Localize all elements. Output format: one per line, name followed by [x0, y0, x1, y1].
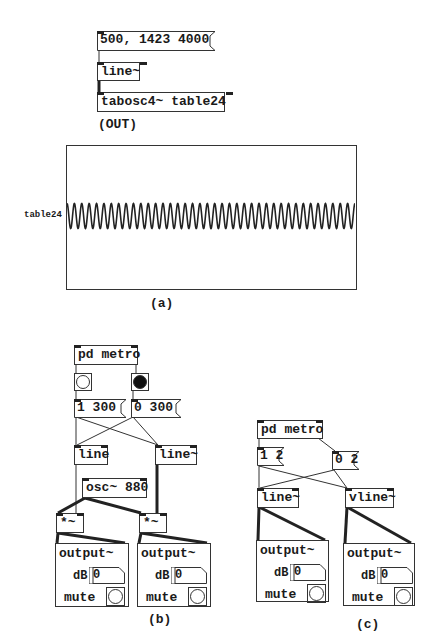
db-number-box[interactable]: 0	[377, 567, 413, 584]
caption-c: (c)	[356, 617, 379, 631]
db-label: dB	[274, 566, 288, 580]
mute-label: mute	[146, 590, 177, 605]
mute-toggle[interactable]	[307, 584, 326, 603]
pd-metro-object-b[interactable]: pd metro	[74, 345, 138, 365]
db-value: 0	[294, 564, 301, 581]
output-title: output~	[59, 546, 114, 561]
object-label: *~	[60, 515, 76, 530]
db-value: 0	[381, 567, 388, 584]
message-stop-c[interactable]: 0 2	[332, 451, 359, 470]
output-title: output~	[347, 546, 402, 561]
tabosc4-object[interactable]: tabosc4~ table24	[97, 92, 225, 112]
mute-label: mute	[64, 590, 95, 605]
out-label: (OUT)	[98, 117, 137, 132]
caption-a: (a)	[150, 296, 173, 311]
object-label: line~	[261, 490, 300, 505]
bang-stop-b[interactable]	[131, 373, 149, 391]
mute-toggle[interactable]	[394, 587, 413, 606]
output-right-b[interactable]: output~ dB 0 mute	[137, 543, 211, 607]
bang-circle-icon	[108, 589, 123, 604]
object-label: line~	[101, 64, 140, 79]
message-box-ramp[interactable]: 500, 1423 4000	[97, 31, 215, 51]
db-label: dB	[361, 569, 375, 583]
multiply-right-b[interactable]: *~	[139, 513, 167, 533]
object-label: line~	[159, 447, 198, 462]
mute-toggle[interactable]	[188, 587, 207, 606]
output-title: output~	[260, 543, 315, 558]
line-object-b[interactable]: line	[74, 445, 108, 465]
bang-circle-icon	[76, 375, 90, 389]
output-left-c[interactable]: output~ dB 0 mute	[256, 540, 329, 602]
message-stop-b[interactable]: 0 300	[131, 399, 181, 418]
object-label: tabosc4~ table24	[101, 94, 226, 109]
pd-metro-object-c[interactable]: pd metro	[257, 420, 323, 439]
object-label: line	[78, 447, 109, 462]
message-text: 1 300	[74, 400, 116, 415]
caption-b: (b)	[148, 612, 171, 627]
message-text: 1 2	[257, 448, 283, 463]
output-title: output~	[141, 546, 196, 561]
mute-label: mute	[265, 587, 296, 602]
object-label: *~	[143, 515, 159, 530]
message-start-c[interactable]: 1 2	[257, 447, 284, 466]
table24-array[interactable]	[66, 145, 357, 290]
db-number-box[interactable]: 0	[290, 564, 326, 581]
multiply-left-b[interactable]: *~	[56, 513, 84, 533]
bang-circle-icon	[309, 586, 324, 601]
message-text: 0 2	[332, 452, 358, 467]
osc-object-b[interactable]: osc~ 880	[82, 478, 147, 498]
output-right-c[interactable]: output~ dB 0 mute	[343, 543, 415, 606]
db-number-box[interactable]: 0	[89, 567, 125, 584]
bang-start-b[interactable]	[74, 373, 92, 391]
db-label: dB	[155, 569, 169, 583]
db-number-box[interactable]: 0	[171, 567, 207, 584]
object-label: osc~ 880	[86, 480, 148, 495]
output-left-b[interactable]: output~ dB 0 mute	[55, 543, 129, 607]
db-label: dB	[73, 569, 87, 583]
bang-circle-icon	[396, 589, 411, 604]
db-value: 0	[93, 567, 100, 584]
table-name-label: table24	[24, 210, 62, 220]
vline-tilde-object-c[interactable]: vline~	[345, 488, 394, 508]
object-label: pd metro	[261, 422, 323, 437]
waveform	[67, 146, 355, 288]
mute-toggle[interactable]	[106, 587, 125, 606]
bang-circle-icon	[133, 375, 147, 389]
line-tilde-object[interactable]: line~	[97, 62, 140, 81]
bang-circle-icon	[190, 589, 205, 604]
db-value: 0	[175, 567, 182, 584]
message-start-b[interactable]: 1 300	[74, 399, 126, 418]
line-tilde-object-b[interactable]: line~	[155, 445, 197, 465]
object-label: pd metro	[78, 347, 140, 362]
message-text: 0 300	[131, 400, 173, 415]
message-text: 500, 1423 4000	[97, 32, 209, 47]
line-tilde-object-c[interactable]: line~	[257, 488, 299, 508]
object-label: vline~	[349, 490, 396, 505]
mute-label: mute	[352, 590, 383, 605]
